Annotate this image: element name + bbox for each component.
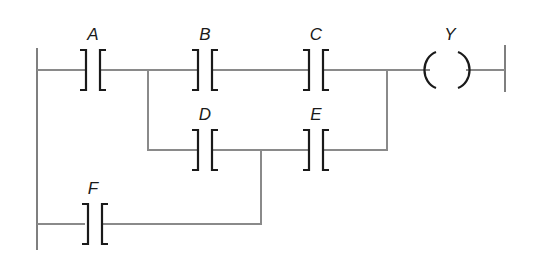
label-y: Y xyxy=(444,26,455,43)
label-a: A xyxy=(87,26,98,43)
coil-y-icon xyxy=(424,52,469,88)
contact-symbols xyxy=(80,50,470,244)
label-e: E xyxy=(310,106,321,123)
label-f: F xyxy=(88,180,98,197)
label-b: B xyxy=(199,26,210,43)
label-c: C xyxy=(310,26,322,43)
label-d: D xyxy=(199,106,211,123)
wires xyxy=(37,70,505,224)
